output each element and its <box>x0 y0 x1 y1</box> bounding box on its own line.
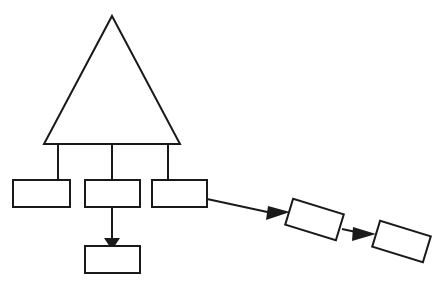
block-diagram <box>0 0 444 287</box>
box-node-2[interactable] <box>85 180 140 207</box>
box-node-6[interactable] <box>85 246 140 273</box>
box-node-1[interactable] <box>13 180 70 207</box>
box-node-3[interactable] <box>152 180 207 207</box>
diagram-canvas-container <box>0 0 444 287</box>
